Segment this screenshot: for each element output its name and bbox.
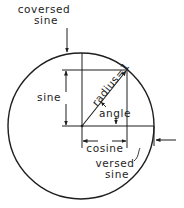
radius-label: radius=1 <box>89 60 132 109</box>
versed-sine-label: versed sine <box>95 157 138 180</box>
unit-circle-diagram: coversed sine sine radius=1 angle cosine… <box>0 0 184 208</box>
center-point <box>81 125 84 128</box>
angle-label: angle <box>99 107 131 119</box>
coversed-sine-label: coversed sine <box>18 3 75 26</box>
cosine-label: cosine <box>86 142 123 154</box>
sine-label: sine <box>37 91 61 103</box>
